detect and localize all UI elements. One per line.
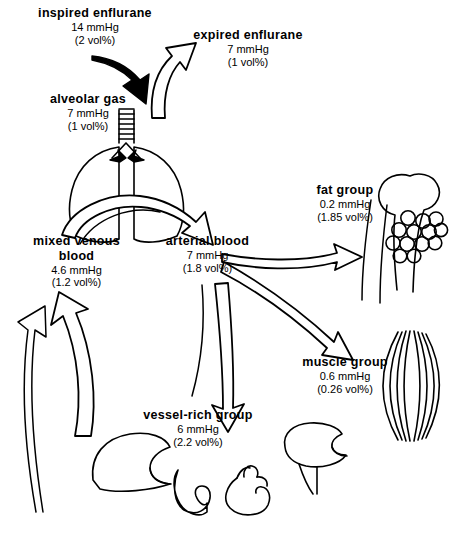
label-mixed-venous-blood-pressure: 4.6 mmHg — [14, 264, 139, 277]
label-fat-group-pressure: 0.2 mmHg — [285, 198, 405, 211]
label-mixed-venous-blood: mixed venous blood 4.6 mmHg (1.2 vol%) — [14, 234, 139, 289]
kidney-illustration — [174, 470, 210, 515]
flow-tissues-to-mixedvenous — [51, 292, 94, 436]
label-fat-group-volume: (1.85 vol%) — [285, 211, 405, 224]
label-mixed-venous-blood-name: mixed venous blood — [14, 234, 139, 264]
label-inspired-enflurane-name: inspired enflurane — [10, 6, 180, 21]
label-alveolar-gas-pressure: 7 mmHg — [18, 107, 158, 120]
label-inspired-enflurane-volume: (2 vol%) — [10, 34, 180, 47]
label-muscle-group-volume: (0.26 vol%) — [280, 383, 410, 396]
label-alveolar-gas-name: alveolar gas — [18, 92, 158, 107]
brain-illustration — [285, 423, 347, 494]
label-mixed-venous-blood-volume: (1.2 vol%) — [14, 276, 139, 289]
label-vessel-rich-group-name: vessel-rich group — [118, 408, 278, 423]
label-inspired-enflurane-pressure: 14 mmHg — [10, 21, 180, 34]
label-expired-enflurane: expired enflurane 7 mmHg (1 vol%) — [168, 28, 328, 69]
label-expired-enflurane-pressure: 7 mmHg — [168, 43, 328, 56]
label-arterial-blood-name: arterial blood — [140, 234, 275, 249]
label-fat-group-name: fat group — [285, 183, 405, 198]
flow-mixedvenous-return-line — [18, 306, 46, 512]
label-alveolar-gas: alveolar gas 7 mmHg (1 vol%) — [18, 92, 158, 133]
label-alveolar-gas-volume: (1 vol%) — [18, 120, 158, 133]
label-inspired-enflurane: inspired enflurane 14 mmHg (2 vol%) — [10, 6, 180, 47]
label-expired-enflurane-name: expired enflurane — [168, 28, 328, 43]
label-vessel-rich-group-pressure: 6 mmHg — [118, 423, 278, 436]
flow-arterial-to-muscle — [221, 262, 353, 360]
label-muscle-group: muscle group 0.6 mmHg (0.26 vol%) — [280, 355, 410, 396]
label-vessel-rich-group: vessel-rich group 6 mmHg (2.2 vol%) — [118, 408, 278, 449]
label-expired-enflurane-volume: (1 vol%) — [168, 56, 328, 69]
label-muscle-group-pressure: 0.6 mmHg — [280, 370, 410, 383]
heart-illustration — [226, 466, 270, 515]
label-arterial-blood-pressure: 7 mmHg — [140, 249, 275, 262]
label-arterial-blood: arterial blood 7 mmHg (1.8 vol%) — [140, 234, 275, 275]
label-muscle-group-name: muscle group — [280, 355, 410, 370]
label-arterial-blood-volume: (1.8 vol%) — [140, 262, 275, 275]
label-fat-group: fat group 0.2 mmHg (1.85 vol%) — [285, 183, 405, 224]
label-vessel-rich-group-volume: (2.2 vol%) — [118, 436, 278, 449]
